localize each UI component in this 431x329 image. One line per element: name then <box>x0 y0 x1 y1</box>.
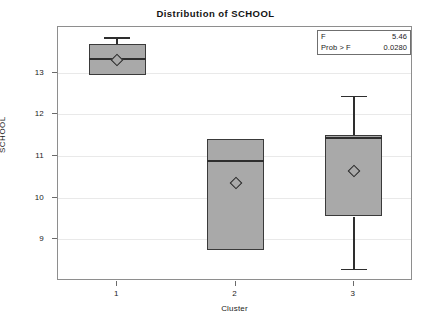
y-tick-label: 10 <box>14 192 44 201</box>
stat-row-f: F 5.46 <box>318 32 410 43</box>
prob-value: 0.0280 <box>383 43 407 54</box>
chart-title: Distribution of SCHOOL <box>0 8 431 19</box>
x-tick-mark <box>116 281 117 286</box>
median-line <box>325 137 382 139</box>
prob-label: Prob > F <box>321 43 351 54</box>
box-body <box>207 139 264 249</box>
boxplot-chart: Distribution of SCHOOL SCHOOL 131211109 … <box>0 0 431 329</box>
upper-whisker-cap <box>104 37 130 39</box>
plot-area <box>57 26 412 280</box>
x-tick-label: 2 <box>215 289 255 298</box>
stat-row-prob: Prob > F 0.0280 <box>318 43 410 54</box>
x-tick-mark <box>353 281 354 286</box>
y-tick-label: 13 <box>14 67 44 76</box>
x-tick-mark <box>235 281 236 286</box>
y-tick-label: 11 <box>14 151 44 160</box>
x-tick-label: 3 <box>333 289 373 298</box>
y-axis-label: SCHOOL <box>0 116 7 153</box>
y-tick-label: 12 <box>14 109 44 118</box>
upper-whisker <box>353 96 355 136</box>
lower-whisker-cap <box>341 269 367 271</box>
y-tick-label: 9 <box>14 234 44 243</box>
upper-whisker-cap <box>341 96 367 98</box>
median-line <box>207 160 264 162</box>
x-tick-label: 1 <box>96 289 136 298</box>
statistics-box: F 5.46 Prob > F 0.0280 <box>317 30 411 55</box>
gridline <box>58 114 411 115</box>
f-label: F <box>321 32 326 43</box>
lower-whisker <box>353 217 355 269</box>
f-value: 5.46 <box>392 32 407 43</box>
x-axis-label: Cluster <box>57 304 412 313</box>
